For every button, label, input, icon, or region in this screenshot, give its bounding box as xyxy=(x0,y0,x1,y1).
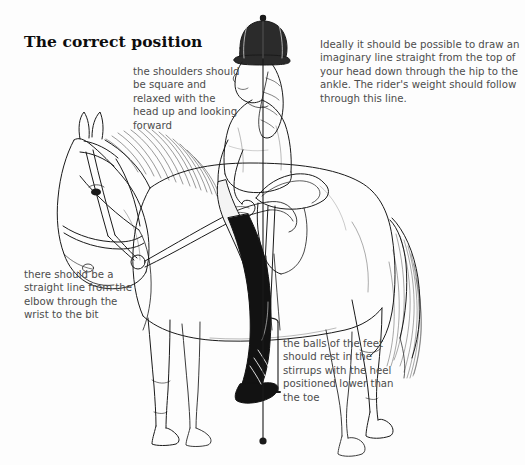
annotation-elbow: there should be a straight line from the… xyxy=(24,268,144,322)
page-title: The correct position xyxy=(24,32,202,51)
rider-helmet xyxy=(234,15,290,65)
annotation-plumb-line: Ideally it should be possible to draw an… xyxy=(320,38,520,105)
annotation-shoulders: the shoulders should be square and relax… xyxy=(133,65,241,132)
horse-head xyxy=(57,112,149,289)
horse-foreleg xyxy=(148,318,179,446)
horse-mane xyxy=(106,129,221,198)
illustration-page: The correct position the shoulders shoul… xyxy=(0,0,525,465)
horse-foreleg-far xyxy=(182,322,211,447)
rider-braid xyxy=(259,64,284,138)
annotation-feet: the balls of the feet should rest in the… xyxy=(283,337,403,404)
